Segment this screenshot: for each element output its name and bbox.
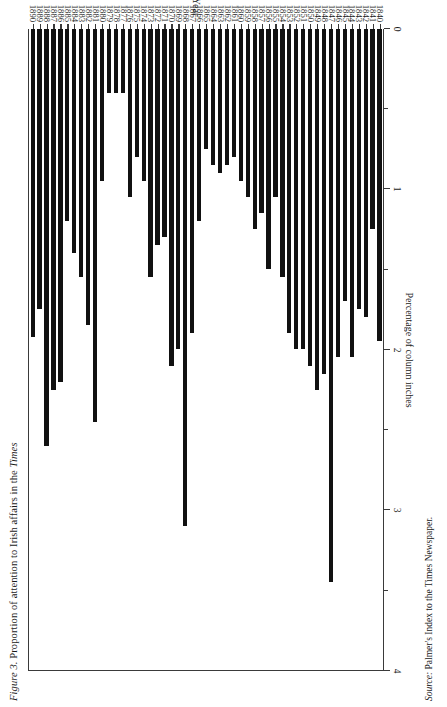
figure-title-emphasis: Times [8, 442, 19, 467]
bar-row: 1887 [50, 29, 57, 670]
bar [169, 29, 173, 366]
category-tick [164, 24, 165, 29]
bar-row: 1870 [168, 29, 175, 670]
category-tick [199, 24, 200, 29]
bar [350, 29, 354, 358]
bar-row: 1876 [126, 29, 133, 670]
bar [232, 29, 236, 157]
category-tick [282, 24, 283, 29]
bar-row: 1853 [286, 29, 293, 670]
bar-row: 1850 [307, 29, 314, 670]
value-tick-label: 0 [392, 27, 402, 32]
value-tick-label: 4 [392, 669, 402, 674]
bar [128, 29, 132, 197]
category-tick [338, 24, 339, 29]
bar [72, 29, 76, 253]
bar-row: 1842 [362, 29, 369, 670]
bar [364, 29, 368, 317]
category-axis-title: Year [191, 0, 202, 16]
category-tick [81, 24, 82, 29]
bar-row: 1866 [196, 29, 203, 670]
category-tick-label: 1890 [28, 5, 37, 22]
category-tick [303, 24, 304, 29]
bar [377, 29, 381, 341]
value-tick-minor [384, 108, 388, 109]
bar-row: 1861 [230, 29, 237, 670]
bar [44, 29, 48, 446]
category-tick [289, 24, 290, 29]
value-tick-major [384, 670, 390, 671]
category-tick [359, 24, 360, 29]
bar [211, 29, 215, 165]
category-tick [373, 24, 374, 29]
bar [183, 29, 187, 526]
bar [322, 29, 326, 374]
figure-source: Source: Palmer's Index to the Times News… [424, 517, 434, 701]
bar-row: 1859 [244, 29, 251, 670]
bar [246, 29, 250, 197]
bar [204, 29, 208, 149]
bar-row: 1852 [293, 29, 300, 670]
category-tick [185, 24, 186, 29]
value-tick-label: 1 [392, 187, 402, 192]
value-tick-label: 3 [392, 508, 402, 513]
bar [51, 29, 55, 390]
source-prefix: Source: [424, 672, 434, 701]
bar [266, 29, 270, 269]
bar [336, 29, 340, 358]
category-tick [248, 24, 249, 29]
bar-row: 1881 [92, 29, 99, 670]
bar-row: 1877 [119, 29, 126, 670]
bar [218, 29, 222, 173]
bar-row: 1864 [210, 29, 217, 670]
bar-row: 1886 [57, 29, 64, 670]
bar [162, 29, 166, 237]
bar-row: 1848 [321, 29, 328, 670]
category-tick [47, 24, 48, 29]
bar-row: 1868 [182, 29, 189, 670]
bar-row: 1873 [147, 29, 154, 670]
category-tick [380, 24, 381, 29]
bar-row: 1865 [203, 29, 210, 670]
value-tick-label: 2 [392, 348, 402, 353]
bar [357, 29, 361, 309]
category-tick [137, 24, 138, 29]
category-tick [67, 24, 68, 29]
bar [135, 29, 139, 157]
category-tick [213, 24, 214, 29]
bar-row: 1855 [272, 29, 279, 670]
bar [107, 29, 111, 93]
category-tick [296, 24, 297, 29]
bar-row: 1888 [43, 29, 50, 670]
figure-page: Figure 3. Proportion of attention to Iri… [0, 0, 447, 707]
value-tick-major [384, 349, 390, 350]
category-tick [144, 24, 145, 29]
category-tick [192, 24, 193, 29]
bar [343, 29, 347, 301]
category-tick [151, 24, 152, 29]
category-tick [317, 24, 318, 29]
category-tick [95, 24, 96, 29]
bar-row: 1847 [328, 29, 335, 670]
bar-row: 1879 [106, 29, 113, 670]
bar-row: 1882 [85, 29, 92, 670]
bar-row: 1889 [36, 29, 43, 670]
value-axis-title: Percentage of column inches [404, 29, 415, 671]
bar-row: 1851 [300, 29, 307, 670]
bar [65, 29, 69, 221]
bar [58, 29, 62, 382]
value-tick-minor [384, 590, 388, 591]
bar [308, 29, 312, 366]
category-tick [324, 24, 325, 29]
category-tick [53, 24, 54, 29]
category-tick [116, 24, 117, 29]
category-tick [241, 24, 242, 29]
category-tick [220, 24, 221, 29]
bar-row: 1874 [140, 29, 147, 670]
bar-row: 1867 [189, 29, 196, 670]
figure-title-prefix: Figure 3. [8, 661, 19, 701]
bar [79, 29, 83, 277]
bar [280, 29, 284, 277]
category-tick [74, 24, 75, 29]
category-tick [178, 24, 179, 29]
